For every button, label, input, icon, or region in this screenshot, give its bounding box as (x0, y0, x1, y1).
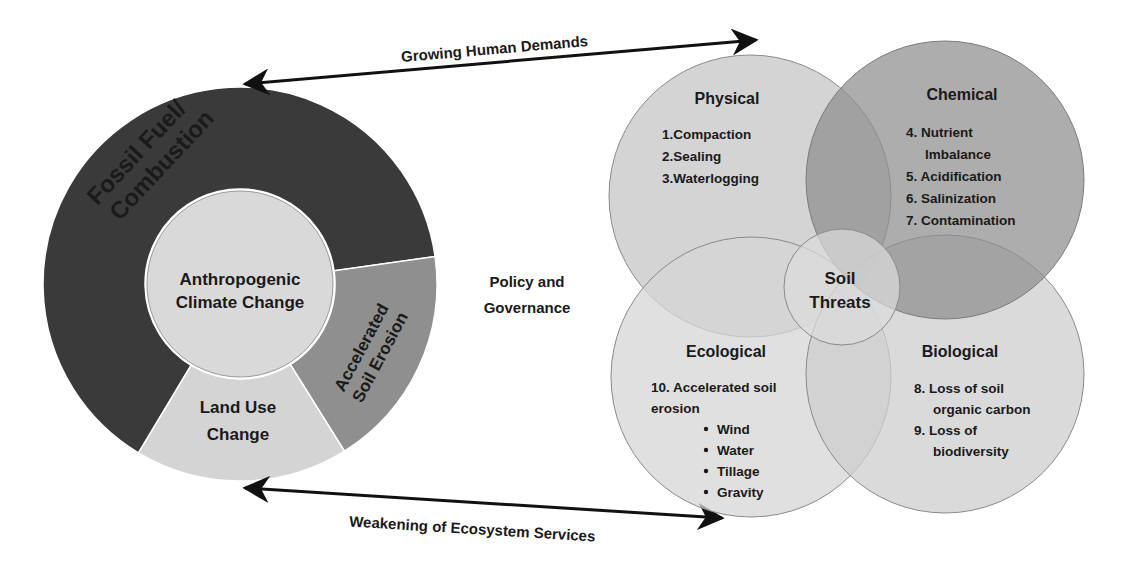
soil-threats-venn: Soil Threats Physical 1.Compaction 2.Sea… (609, 41, 1084, 517)
chemical-item: 4. Nutrient (906, 125, 973, 140)
bullet-icon (704, 448, 708, 452)
ecological-bullet-item: Gravity (717, 485, 764, 500)
biological-item: 8. Loss of soil (914, 381, 1004, 396)
chemical-item: 6. Salinization (906, 191, 996, 206)
growing-human-demands-label: Growing Human Demands (400, 32, 588, 65)
chemical-item: 5. Acidification (906, 169, 1002, 184)
bullet-icon (704, 469, 708, 473)
donut-center-label-line1: Anthropogenic (180, 270, 301, 289)
biological-item: organic carbon (933, 402, 1031, 417)
bullet-icon (704, 427, 708, 431)
chemical-item: 7. Contamination (906, 213, 1016, 228)
physical-item: 3.Waterlogging (662, 171, 759, 186)
double-arrow-bottom (245, 488, 722, 518)
ecological-item: 10. Accelerated soil (651, 380, 777, 395)
policy-label-line1: Policy and (489, 273, 564, 290)
biological-title: Biological (922, 343, 998, 360)
physical-title: Physical (695, 90, 760, 107)
bullet-icon (704, 490, 708, 494)
biological-item: biodiversity (933, 444, 1009, 459)
weakening-ecosystem-services-label: Weakening of Ecosystem Services (349, 513, 596, 545)
physical-item: 2.Sealing (662, 149, 721, 164)
soil-threats-label-line1: Soil (824, 269, 855, 288)
ecological-bullet-item: Water (717, 443, 755, 458)
land-use-label-line2: Change (207, 425, 269, 444)
policy-label-line2: Governance (484, 299, 571, 316)
physical-item: 1.Compaction (662, 127, 751, 142)
donut-center-label-line2: Climate Change (176, 293, 304, 312)
biological-item: 9. Loss of (914, 423, 978, 438)
ecological-bullet-item: Tillage (717, 464, 760, 479)
ecological-bullet-item: Wind (717, 422, 750, 437)
soil-threats-label-line2: Threats (809, 293, 870, 312)
ecological-title: Ecological (686, 343, 766, 360)
soil-threats-diagram: Anthropogenic Climate Change Fossil Fuel… (0, 0, 1124, 566)
land-use-label-line1: Land Use (200, 398, 277, 417)
weakening-ecosystem-services-arrow: Weakening of Ecosystem Services (245, 488, 722, 545)
climate-change-donut: Anthropogenic Climate Change Fossil Fuel… (43, 86, 437, 481)
ecological-item: erosion (651, 401, 700, 416)
chemical-title: Chemical (926, 86, 997, 103)
chemical-item: Imbalance (925, 147, 992, 162)
